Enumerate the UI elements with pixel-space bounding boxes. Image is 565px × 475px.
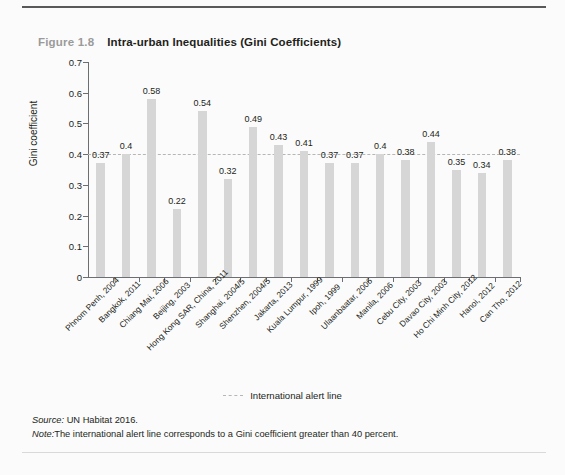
- bar-value-label: 0.37: [92, 150, 110, 160]
- note-label: Note:: [32, 429, 54, 439]
- bar-value-label: 0.54: [194, 98, 212, 108]
- y-axis-tick-mark: [83, 185, 88, 186]
- bar-value-label: 0.32: [219, 166, 237, 176]
- source-text: UN Habitat 2016.: [64, 415, 138, 425]
- bar[interactable]: [147, 99, 156, 277]
- bar[interactable]: [452, 170, 461, 278]
- y-axis-tick-label: 0: [77, 272, 82, 283]
- legend-item-alert-line: International alert line: [250, 390, 342, 401]
- note-text: The international alert line corresponds…: [54, 429, 398, 439]
- bar[interactable]: [173, 209, 182, 277]
- dashed-line-icon: [223, 395, 243, 396]
- bar-value-label: 0.35: [448, 157, 466, 167]
- x-axis-line: [88, 277, 520, 278]
- bar[interactable]: [427, 142, 436, 277]
- bar[interactable]: [503, 160, 512, 277]
- bar-value-label: 0.43: [270, 132, 288, 142]
- bar-value-label: 0.4: [374, 141, 387, 151]
- y-axis-title: Gini coefficient: [28, 54, 39, 214]
- bar[interactable]: [224, 179, 233, 277]
- y-axis-tick-label: 0.7: [69, 57, 82, 68]
- footnotes: Source: UN Habitat 2016. Note:The intern…: [32, 413, 532, 441]
- bar-value-label: 0.37: [321, 150, 339, 160]
- y-axis-tick-label: 0.1: [69, 241, 82, 252]
- y-axis-tick-mark: [83, 277, 88, 278]
- bar[interactable]: [96, 163, 105, 277]
- y-axis-tick-mark: [83, 154, 88, 155]
- bar[interactable]: [249, 127, 258, 278]
- bar[interactable]: [300, 151, 309, 277]
- y-axis-tick-label: 0.3: [69, 179, 82, 190]
- y-axis-tick-label: 0.6: [69, 87, 82, 98]
- bar-value-label: 0.41: [295, 138, 313, 148]
- x-axis-tick-mark: [393, 277, 394, 282]
- x-axis-tick-mark: [190, 277, 191, 282]
- bar[interactable]: [325, 163, 334, 277]
- bar-value-label: 0.58: [143, 86, 161, 96]
- bar[interactable]: [351, 163, 360, 277]
- y-axis-tick-label: 0.4: [69, 149, 82, 160]
- chart-plot: 0.70.60.50.40.30.20.10 Gini coefficient …: [0, 0, 565, 475]
- y-axis-tick-mark: [83, 123, 88, 124]
- x-axis-tick-mark: [291, 277, 292, 282]
- bar[interactable]: [376, 154, 385, 277]
- bar-value-label: 0.38: [499, 147, 517, 157]
- bar-value-label: 0.34: [473, 160, 491, 170]
- bar-value-label: 0.49: [244, 114, 262, 124]
- bar-value-label: 0.37: [346, 150, 364, 160]
- y-axis-tick-label: 0.5: [69, 118, 82, 129]
- bar[interactable]: [198, 111, 207, 277]
- chart-legend: International alert line: [0, 390, 565, 401]
- y-axis-ticks: 0.70.60.50.40.30.20.10: [52, 62, 82, 277]
- y-axis-tick-label: 0.2: [69, 210, 82, 221]
- bar[interactable]: [401, 160, 410, 277]
- bar[interactable]: [478, 173, 487, 277]
- source-note: Source: UN Habitat 2016.: [32, 413, 532, 427]
- y-axis-tick-mark: [83, 62, 88, 63]
- bar[interactable]: [274, 145, 283, 277]
- bar[interactable]: [122, 154, 131, 277]
- bar-value-label: 0.44: [422, 129, 440, 139]
- y-axis-tick-mark: [83, 216, 88, 217]
- bar-value-label: 0.22: [168, 196, 186, 206]
- y-axis-tick-mark: [83, 93, 88, 94]
- source-label: Source:: [32, 415, 64, 425]
- y-axis-tick-mark: [83, 246, 88, 247]
- bar-value-label: 0.4: [120, 141, 133, 151]
- explanatory-note: Note:The international alert line corres…: [32, 427, 532, 441]
- bars-container: 0.370.40.580.220.540.320.490.430.410.370…: [88, 62, 520, 277]
- bar-value-label: 0.38: [397, 147, 415, 157]
- figure-container: Figure 1.8 Intra-urban Inequalities (Gin…: [0, 0, 565, 475]
- x-axis-tick-mark: [495, 277, 496, 282]
- x-axis-tick-mark: [342, 277, 343, 282]
